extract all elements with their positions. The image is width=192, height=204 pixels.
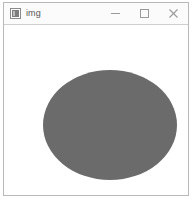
close-button[interactable] (159, 3, 188, 24)
window-controls (101, 3, 188, 25)
maximize-button[interactable] (130, 3, 159, 24)
window-content (4, 25, 188, 195)
image-viewer-window: img (3, 2, 189, 196)
image-icon (10, 8, 21, 19)
ellipse-shape (43, 70, 177, 180)
minimize-button[interactable] (101, 3, 130, 24)
title-bar[interactable]: img (4, 3, 188, 25)
screenshot-root: img (0, 0, 192, 204)
window-title: img (26, 8, 41, 19)
image-canvas[interactable] (4, 25, 188, 195)
